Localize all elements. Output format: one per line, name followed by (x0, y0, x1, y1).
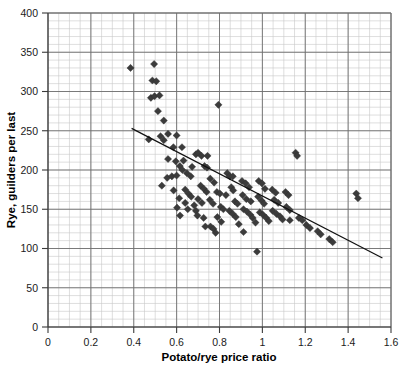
x-tick-label: 0.2 (84, 336, 99, 348)
x-tick-label: 1.6 (384, 336, 399, 348)
y-axis-tick-labels: 050100150200250300350400 (20, 7, 38, 333)
y-tick-label: 250 (20, 125, 38, 137)
x-axis-tick-labels: 00.20.40.60.811.21.41.6 (45, 336, 398, 348)
y-tick-label: 200 (20, 164, 38, 176)
scatter-plot: 050100150200250300350400 00.20.40.60.811… (0, 0, 412, 367)
x-tick-label: 0.4 (126, 336, 141, 348)
y-tick-label: 50 (26, 282, 38, 294)
y-tick-label: 150 (20, 203, 38, 215)
x-tick-label: 0.6 (169, 336, 184, 348)
x-tick-label: 0.8 (212, 336, 227, 348)
y-axis-title: Rye, guilders per last (5, 112, 17, 228)
x-tick-label: 0 (45, 336, 51, 348)
x-tick-label: 1.2 (298, 336, 313, 348)
y-tick-label: 100 (20, 242, 38, 254)
y-tick-label: 350 (20, 46, 38, 58)
y-tick-label: 300 (20, 85, 38, 97)
y-tick-label: 0 (32, 321, 38, 333)
x-tick-label: 1.4 (341, 336, 356, 348)
y-tick-label: 400 (20, 7, 38, 19)
x-tick-label: 1 (259, 336, 265, 348)
x-axis-title: Potato/rye price ratio (161, 351, 276, 363)
chart-figure: 050100150200250300350400 00.20.40.60.811… (0, 0, 412, 367)
